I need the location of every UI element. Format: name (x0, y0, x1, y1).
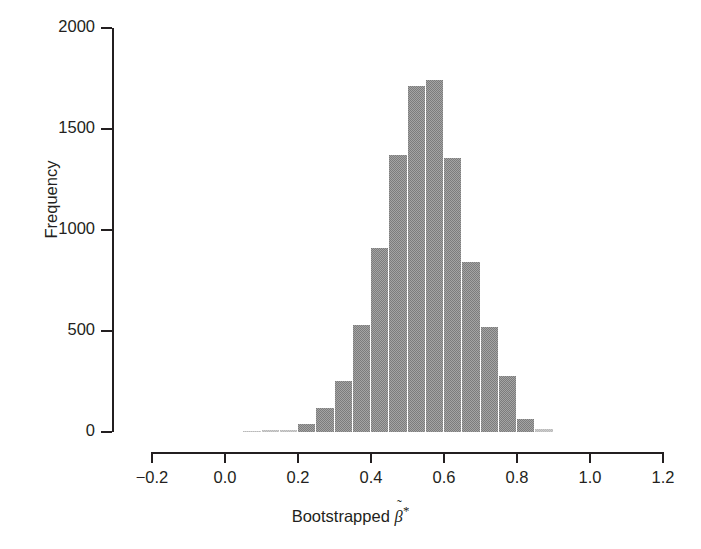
histogram-bar (389, 155, 407, 432)
beta-symbol: ˜β (394, 507, 402, 527)
y-axis-tick-label: 1500 (0, 118, 95, 137)
y-axis-tick-label: 2000 (0, 17, 95, 36)
x-axis-tick (151, 452, 153, 463)
histogram-bar (371, 248, 389, 432)
y-axis-title: Frequency (42, 140, 61, 260)
histogram-bar (426, 80, 444, 432)
histogram-bar (262, 430, 280, 432)
x-axis-tick-label: 1.2 (628, 468, 698, 487)
histogram-bar (535, 429, 553, 432)
x-axis-tick-label: 0.6 (409, 468, 479, 487)
x-axis-line (152, 452, 663, 454)
y-axis-tick (101, 27, 112, 29)
x-axis-title-prefix: Bootstrapped (292, 507, 395, 525)
x-axis-tick-label: 0.2 (263, 468, 333, 487)
histogram-bar (316, 408, 334, 432)
y-axis-tick (101, 431, 112, 433)
tilde-accent: ˜ (395, 498, 403, 512)
y-axis-tick (101, 229, 112, 231)
histogram-bar (499, 376, 517, 432)
histogram-bar (243, 431, 261, 433)
x-axis-tick (297, 452, 299, 463)
x-axis-tick-label: 1.0 (555, 468, 625, 487)
y-axis-tick-label: 500 (0, 320, 95, 339)
x-axis-tick (516, 452, 518, 463)
histogram-bar (335, 381, 353, 433)
x-axis-tick-label: −0.2 (117, 468, 187, 487)
asterisk-superscript: * (403, 504, 409, 518)
x-axis-tick-label: 0.0 (190, 468, 260, 487)
x-axis-tick (224, 452, 226, 463)
x-axis-tick (589, 452, 591, 463)
x-axis-tick (662, 452, 664, 463)
histogram-figure: 0500100015002000 Frequency −0.20.00.20.4… (0, 0, 701, 549)
histogram-bar (462, 262, 480, 432)
y-axis-tick (101, 128, 112, 130)
x-axis-tick (443, 452, 445, 463)
x-axis-tick (370, 452, 372, 463)
histogram-bar (517, 419, 535, 432)
histogram-bar (298, 424, 316, 432)
y-axis-tick (101, 330, 112, 332)
histogram-bar (408, 86, 426, 432)
x-axis-title: Bootstrapped ˜β* (0, 504, 701, 527)
x-axis-tick-label: 0.4 (336, 468, 406, 487)
y-axis-tick-label: 0 (0, 421, 95, 440)
histogram-bar (444, 158, 462, 432)
plot-area (112, 28, 687, 432)
histogram-bar (353, 325, 371, 432)
histogram-bar (280, 430, 298, 432)
histogram-bar (481, 327, 499, 432)
x-axis-tick-label: 0.8 (482, 468, 552, 487)
